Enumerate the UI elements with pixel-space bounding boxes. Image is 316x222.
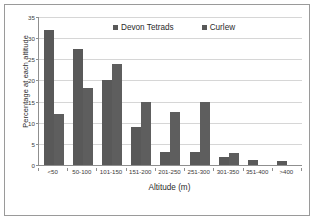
y-tick-label: 5 (19, 140, 35, 147)
x-tick-label: 201-250 (155, 168, 184, 175)
x-tick-label: >400 (272, 168, 301, 175)
x-tick-mark (272, 168, 273, 171)
x-tick-label: <50 (38, 168, 67, 175)
x-tick-mark (155, 168, 156, 171)
chart-plot-wrapper: Percentage at each altitude 353025201510… (5, 5, 309, 215)
bar-group (156, 17, 185, 165)
bar-group (97, 17, 126, 165)
y-tick-label: 15 (19, 98, 35, 105)
bar-group (273, 17, 302, 165)
x-tick-mark (38, 168, 39, 171)
y-tick-label: 30 (19, 35, 35, 42)
bar (112, 64, 122, 165)
bar (190, 152, 200, 165)
bar (54, 114, 64, 165)
y-tick-label: 0 (19, 162, 35, 169)
bar-group (185, 17, 214, 165)
bar-group (244, 17, 273, 165)
y-axis-tick-labels: 35302520151050 (19, 17, 35, 165)
y-tick-label: 25 (19, 56, 35, 63)
x-tick-mark (301, 168, 302, 171)
bar (44, 30, 54, 165)
x-tick-label: 50-100 (67, 168, 96, 175)
legend-label: Curlew (210, 23, 235, 32)
x-tick-mark (67, 168, 68, 171)
chart-frame: Percentage at each altitude 353025201510… (4, 4, 310, 216)
bar-group (214, 17, 243, 165)
x-tick-mark (96, 168, 97, 171)
bar (73, 49, 83, 165)
x-tick-mark (184, 168, 185, 171)
x-tick-label: 351-400 (243, 168, 272, 175)
x-tick-label: 101-150 (96, 168, 125, 175)
legend-swatch-icon (113, 25, 118, 30)
bar (160, 152, 170, 165)
x-tick-mark (243, 168, 244, 171)
bar (219, 157, 229, 165)
x-tick-label: 151-200 (126, 168, 155, 175)
bar-groups (39, 17, 302, 165)
bar (200, 102, 210, 165)
legend-label: Devon Tetrads (121, 23, 174, 32)
bar (248, 160, 258, 165)
bar (170, 112, 180, 165)
bar-group (68, 17, 97, 165)
x-axis-tick-labels: <5050-100101-150151-200201-250251-300301… (38, 168, 301, 175)
y-tick-label: 35 (19, 14, 35, 21)
bar-group (39, 17, 68, 165)
bar (102, 80, 112, 165)
x-tick-label: 301-350 (213, 168, 242, 175)
plot-area (38, 17, 302, 166)
legend-item-curlew: Curlew (202, 23, 235, 32)
y-tick-mark (36, 165, 39, 166)
chart-legend: Devon Tetrads Curlew (113, 23, 235, 32)
bar (131, 127, 141, 165)
legend-item-devon-tetrads: Devon Tetrads (113, 23, 174, 32)
x-tick-mark (126, 168, 127, 171)
bar (83, 88, 93, 165)
x-tick-label: 251-300 (184, 168, 213, 175)
legend-swatch-icon (202, 25, 207, 30)
bar-group (127, 17, 156, 165)
bar (229, 153, 239, 165)
x-tick-mark (213, 168, 214, 171)
bar (141, 102, 151, 165)
y-tick-label: 10 (19, 119, 35, 126)
y-tick-label: 20 (19, 77, 35, 84)
bar (277, 161, 287, 165)
x-axis-title: Altitude (m) (38, 183, 301, 192)
